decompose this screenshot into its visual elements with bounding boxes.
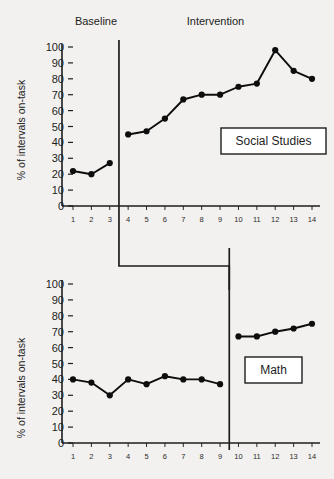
y-axis-ticks-math: 0102030405060708090100 (46, 278, 73, 449)
x-tick-label: 6 (163, 215, 167, 224)
x-tick-label: 9 (218, 215, 222, 224)
phase-label-intervention: Intervention (187, 15, 244, 27)
data-point (107, 392, 113, 398)
data-point (309, 76, 315, 82)
x-tick-label: 2 (89, 452, 93, 461)
chart-panel-social-studies: Baseline Intervention % of intervals on-… (0, 0, 334, 240)
x-tick-label: 7 (181, 452, 185, 461)
data-point (125, 131, 131, 137)
x-tick-label: 10 (234, 452, 242, 461)
x-tick-label: 11 (253, 452, 261, 461)
x-tick-label: 7 (181, 215, 185, 224)
x-tick-label: 10 (234, 215, 242, 224)
social-studies-chart-svg: Baseline Intervention % of intervals on-… (0, 0, 334, 240)
data-point (70, 168, 76, 174)
data-point (235, 333, 241, 339)
data-point (180, 96, 186, 102)
social-studies-phase-labels: Baseline Intervention (75, 15, 244, 27)
x-axis-ticks-math: 1234567891011121314 (71, 443, 316, 461)
data-point (143, 381, 149, 387)
chart-panel-math: % of intervals on-task 01020304050607080… (0, 240, 334, 479)
x-tick-label: 8 (200, 452, 204, 461)
data-point (309, 321, 315, 327)
y-axis-title: % of intervals on-task (15, 79, 27, 180)
x-tick-label: 1 (71, 215, 75, 224)
data-point (88, 171, 94, 177)
x-tick-label: 8 (200, 215, 204, 224)
x-tick-label: 3 (108, 452, 112, 461)
x-tick-label: 2 (89, 215, 93, 224)
data-point (107, 160, 113, 166)
x-tick-label: 4 (126, 452, 130, 461)
data-point (291, 68, 297, 74)
data-point (272, 329, 278, 335)
social-studies-data-series (70, 47, 315, 177)
condition-box-label-social: Social Studies (235, 134, 311, 148)
data-point (70, 376, 76, 382)
y-axis-ticks-social: 0102030405060708090100 (46, 41, 73, 212)
x-tick-label: 12 (271, 215, 279, 224)
data-point (217, 92, 223, 98)
data-point (162, 115, 168, 121)
data-point (143, 128, 149, 134)
x-tick-label: 4 (126, 215, 130, 224)
phase-label-baseline: Baseline (75, 15, 117, 27)
x-tick-label: 9 (218, 452, 222, 461)
x-tick-label: 12 (271, 452, 279, 461)
x-tick-label: 5 (144, 215, 148, 224)
data-point (254, 80, 260, 86)
data-point (199, 92, 205, 98)
x-tick-label: 11 (253, 215, 261, 224)
data-point (235, 84, 241, 90)
x-tick-label: 5 (144, 452, 148, 461)
data-point (291, 325, 297, 331)
data-point (125, 376, 131, 382)
condition-label-box-math: Math (245, 357, 302, 383)
x-tick-label: 13 (289, 452, 297, 461)
data-point (180, 376, 186, 382)
x-tick-label: 6 (163, 452, 167, 461)
x-axis-ticks-social: 1234567891011121314 (71, 206, 316, 224)
math-chart-svg: % of intervals on-task 01020304050607080… (0, 240, 334, 479)
data-point (217, 381, 223, 387)
data-point (254, 333, 260, 339)
y-axis-title-math: % of intervals on-task (15, 337, 27, 438)
x-tick-label: 1 (71, 452, 75, 461)
single-subject-ab-design-figure: Baseline Intervention % of intervals on-… (0, 0, 334, 479)
condition-label-box-social: Social Studies (221, 128, 326, 154)
x-tick-label: 3 (108, 215, 112, 224)
data-point (272, 47, 278, 53)
data-point (88, 379, 94, 385)
condition-box-label-math: Math (260, 363, 287, 377)
x-tick-label: 14 (308, 452, 316, 461)
data-point (199, 376, 205, 382)
data-point (162, 373, 168, 379)
x-tick-label: 14 (308, 215, 316, 224)
x-tick-label: 13 (289, 215, 297, 224)
